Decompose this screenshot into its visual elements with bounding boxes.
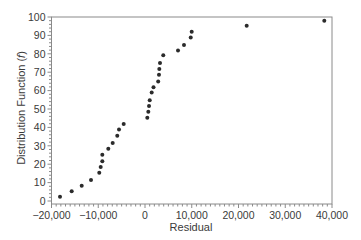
x-tick-label: −10,000 — [79, 209, 117, 221]
data-point — [89, 178, 93, 182]
x-tick-label: 40,000 — [316, 209, 348, 221]
y-tick-label: 20 — [34, 158, 46, 170]
x-tick-label: 10,000 — [176, 209, 208, 221]
x-tick-label: 20,000 — [222, 209, 254, 221]
data-point — [146, 110, 150, 114]
data-point — [99, 165, 103, 169]
y-tick-label: 70 — [34, 66, 46, 78]
data-point — [156, 79, 160, 83]
data-point — [80, 184, 84, 188]
y-tick-label: 10 — [34, 176, 46, 188]
y-tick-label: 30 — [34, 140, 46, 152]
y-tick-label: 40 — [34, 121, 46, 133]
data-point — [189, 36, 193, 40]
y-tick-label: 50 — [34, 103, 46, 115]
data-point — [157, 67, 161, 71]
y-axis-tick-labels: 0102030405060708090100 — [28, 11, 46, 207]
y-tick-label: 100 — [28, 11, 46, 23]
data-point — [97, 171, 101, 175]
x-axis-tick-labels: −20,000−10,000010,00020,00030,00040,000 — [32, 209, 348, 221]
data-point — [115, 134, 119, 138]
x-axis-label: Residual — [170, 221, 213, 233]
x-axis-ticks — [52, 204, 333, 208]
y-tick-label: 60 — [34, 84, 46, 96]
data-point — [106, 147, 110, 151]
data-point — [122, 122, 126, 126]
x-tick-label: 0 — [142, 209, 148, 221]
x-tick-label: −20,000 — [32, 209, 70, 221]
data-point — [157, 73, 161, 77]
data-point — [150, 91, 154, 95]
x-tick-label: 30,000 — [269, 209, 301, 221]
data-point — [58, 195, 62, 199]
data-point — [322, 19, 326, 23]
y-axis-ticks — [48, 17, 52, 201]
y-tick-label: 0 — [40, 195, 46, 207]
data-point — [117, 128, 121, 132]
data-point — [176, 48, 180, 52]
data-point — [70, 189, 74, 193]
y-tick-label: 80 — [34, 48, 46, 60]
data-point — [190, 30, 194, 34]
data-point — [111, 141, 115, 145]
data-point — [100, 159, 104, 163]
data-point — [182, 43, 186, 47]
data-points — [58, 19, 326, 199]
data-point — [245, 24, 249, 28]
data-point — [152, 85, 156, 89]
y-tick-label: 90 — [34, 29, 46, 41]
y-axis-label-prefix: Distribution Function ( — [15, 58, 27, 165]
distribution-function-chart: −20,000−10,000010,00020,00030,00040,000 … — [0, 0, 361, 240]
plot-frame — [52, 17, 333, 204]
data-point — [100, 153, 104, 157]
data-point — [148, 98, 152, 102]
data-point — [145, 116, 149, 120]
y-axis-label: Distribution Function (f) — [15, 51, 27, 165]
data-point — [161, 53, 165, 57]
data-point — [158, 61, 162, 65]
data-point — [147, 104, 151, 108]
y-axis-label-suffix: ) — [15, 51, 27, 55]
